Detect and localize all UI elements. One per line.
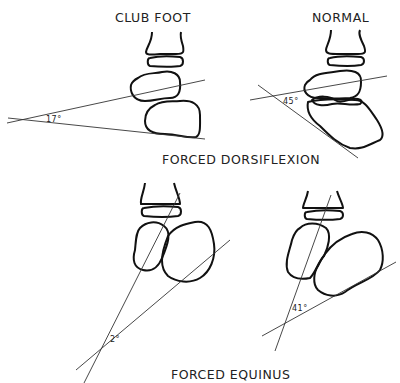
calcaneus-axis-line — [262, 262, 396, 336]
tibia-shape — [303, 191, 343, 208]
club-foot-heading: CLUB FOOT — [115, 10, 191, 25]
calcaneus-shape — [308, 99, 383, 148]
dorsiflexion-caption: FORCED DORSIFLEXION — [162, 152, 320, 167]
talus-shape — [134, 222, 169, 270]
calcaneus-axis-line — [76, 240, 230, 370]
epiphysis-shape — [328, 56, 364, 65]
calcaneus-shape — [314, 232, 383, 296]
normal-equinus-angle: 41° — [292, 304, 308, 313]
tibia-shape — [326, 30, 365, 54]
epiphysis-shape — [148, 56, 183, 66]
calcaneus-shape — [162, 222, 214, 282]
calcaneus-axis-line — [8, 118, 205, 139]
normal-equinus-panel: 41° — [262, 191, 396, 351]
talus-shape — [131, 71, 180, 101]
equinus-caption: FORCED EQUINUS — [171, 367, 290, 382]
tibia-shape — [141, 183, 180, 204]
club-foot-dorsiflexion-panel: CLUB FOOT 17° — [7, 10, 205, 139]
calcaneus-shape — [145, 101, 200, 138]
talus-shape — [304, 70, 361, 98]
talus-axis-line — [275, 195, 331, 351]
talocalcaneal-angle-diagram: CLUB FOOT 17° NORMAL 45° FORCED DORSIFLE… — [0, 0, 400, 383]
talus-axis-line — [84, 193, 180, 383]
epiphysis-shape — [142, 206, 181, 216]
normal-dorsiflexion-angle: 45° — [283, 97, 299, 106]
normal-dorsiflexion-panel: NORMAL 45° — [250, 10, 387, 158]
club-foot-equinus-angle: 2° — [110, 335, 120, 344]
club-foot-dorsiflexion-angle: 17° — [46, 115, 62, 124]
normal-heading: NORMAL — [312, 10, 369, 25]
talus-shape — [287, 224, 329, 279]
tibia-shape — [146, 32, 183, 55]
club-foot-equinus-panel: 2° — [76, 183, 230, 383]
